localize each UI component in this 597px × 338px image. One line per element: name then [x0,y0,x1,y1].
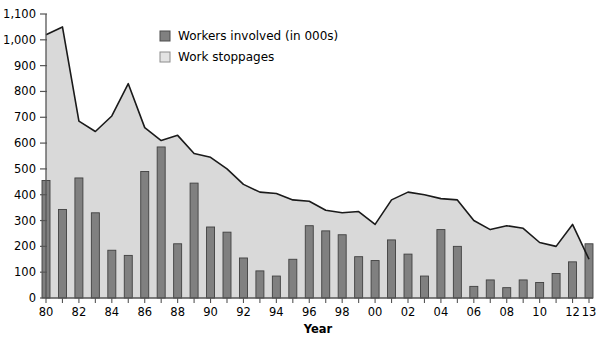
y-tick-label-500: 500 [14,162,36,176]
legend-label-workers-involved: Workers involved (in 000s) [178,29,338,43]
x-tick-label-06: 06 [466,305,481,319]
y-tick-label-100: 100 [14,265,36,279]
x-tick-label-80: 80 [39,305,54,319]
bar-12 [569,262,577,298]
x-tick-label-92: 92 [236,305,251,319]
bar-01 [388,240,396,298]
legend-swatch-work-stoppages [160,52,170,62]
bar-83 [91,213,99,298]
x-tick-label-02: 02 [401,305,416,319]
y-tick-label-600: 600 [14,136,36,150]
work-stoppages-chart: 01002003004005006007008009001,0001,100 8… [0,0,597,338]
bar-84 [108,250,116,298]
bar-86 [141,171,149,298]
x-tick-label-10: 10 [532,305,547,319]
bar-87 [157,147,165,298]
x-tick-label-94: 94 [269,305,284,319]
x-tick-label-88: 88 [170,305,185,319]
bar-00 [371,261,379,298]
x-tick-label-86: 86 [137,305,152,319]
x-tick-label-08: 08 [499,305,514,319]
bar-08 [503,288,511,298]
x-tick-label-96: 96 [302,305,317,319]
chart-container: 01002003004005006007008009001,0001,100 8… [0,0,597,338]
bar-88 [174,244,182,298]
bar-11 [552,273,560,298]
y-tick-label-200: 200 [14,239,36,253]
x-tick-label-12: 12 [565,305,580,319]
x-tick-label-13: 13 [582,305,597,319]
bar-90 [207,227,215,298]
bar-85 [124,255,132,298]
x-tick-label-00: 00 [368,305,383,319]
y-tick-label-800: 800 [14,84,36,98]
x-tick-label-98: 98 [335,305,350,319]
x-tick-label-82: 82 [72,305,87,319]
legend-swatch-workers-involved [160,31,170,41]
bar-06 [470,286,478,298]
y-tick-label-400: 400 [14,188,36,202]
bar-91 [223,232,231,298]
bar-09 [519,280,527,298]
legend-label-work-stoppages: Work stoppages [178,50,274,64]
bar-05 [453,246,461,298]
x-tick-label-90: 90 [203,305,218,319]
bar-99 [355,257,363,298]
y-tick-label-1,100: 1,100 [3,7,36,21]
x-tick-label-84: 84 [104,305,119,319]
bar-81 [58,209,66,298]
bar-97 [322,231,330,298]
y-tick-label-1,000: 1,000 [3,33,36,47]
y-tick-label-700: 700 [14,110,36,124]
y-tick-label-0: 0 [29,291,36,305]
bar-98 [338,235,346,298]
y-tick-label-900: 900 [14,59,36,73]
y-tick-label-300: 300 [14,214,36,228]
x-tick-label-04: 04 [434,305,449,319]
bar-07 [486,280,494,298]
bar-82 [75,178,83,298]
bar-94 [272,276,280,298]
bar-02 [404,254,412,298]
bar-92 [239,258,247,298]
x-axis-title: Year [303,322,333,336]
bar-89 [190,183,198,298]
bar-95 [289,259,297,298]
bar-10 [536,283,544,298]
bar-04 [437,230,445,298]
bar-96 [305,226,313,298]
bar-93 [256,271,264,298]
bar-03 [420,276,428,298]
